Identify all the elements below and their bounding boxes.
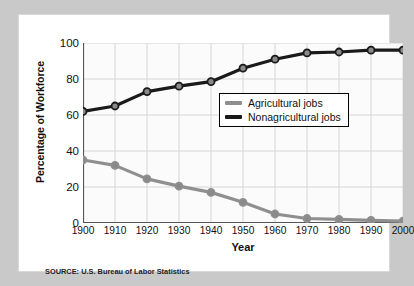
chart-card: Percentage of Workforce 020406080100 190… [18,14,390,272]
y-axis-tick: 20 [66,181,79,193]
x-axis-title: Year [83,241,403,253]
x-axis-tick: 2000 [392,225,414,236]
legend-swatch-agricultural [225,101,242,105]
x-axis-tick: 1950 [232,225,255,236]
x-axis-tick: 1990 [360,225,383,236]
legend-label-nonagricultural: Nonagricultural jobs [248,111,341,123]
legend-label-agricultural: Agricultural jobs [248,97,323,109]
x-axis-tick: 1980 [328,225,351,236]
source-note: SOURCE: U.S. Bureau of Labor Statistics [45,267,190,276]
legend-item-agricultural: Agricultural jobs [225,97,341,109]
plot-area [83,43,403,223]
x-axis-tick-labels: 1900191019201930194019501960197019801990… [83,225,403,241]
x-axis-tick: 1920 [136,225,159,236]
x-axis-tick: 1940 [200,225,223,236]
x-axis-tick: 1970 [296,225,319,236]
x-axis-tick: 1910 [104,225,127,236]
legend-item-nonagricultural: Nonagricultural jobs [225,111,341,123]
legend-swatch-nonagricultural [225,115,242,119]
y-axis-tick-labels: 020406080100 [45,43,79,223]
chart-svg [83,43,403,223]
y-axis-tick: 80 [66,73,79,85]
x-axis-tick: 1900 [72,225,95,236]
y-axis-tick: 60 [66,109,79,121]
chart-legend: Agricultural jobs Nonagricultural jobs [219,93,349,127]
x-axis-tick: 1960 [264,225,287,236]
x-axis-tick: 1930 [168,225,191,236]
y-axis-tick: 100 [60,37,79,49]
y-axis-tick: 40 [66,145,79,157]
